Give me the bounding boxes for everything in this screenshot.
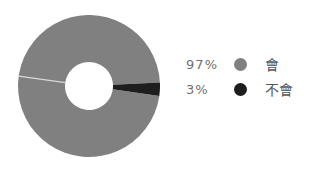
legend-item-buhui[interactable]: 3% 不會 [186,77,314,102]
legend-percent-hui: 97% [186,58,232,71]
legend-swatch-gray-icon [234,58,247,71]
legend-label-hui: 會 [265,58,279,72]
legend-percent-buhui: 3% [186,83,232,96]
donut-chart-svg [18,15,160,157]
legend-label-buhui: 不會 [265,83,293,97]
chart-figure: 97% 會 3% 不會 [0,0,319,170]
donut-chart [18,15,160,157]
chart-legend: 97% 會 3% 不會 [186,52,314,102]
legend-item-hui[interactable]: 97% 會 [186,52,314,77]
legend-swatch-black-icon [234,83,247,96]
